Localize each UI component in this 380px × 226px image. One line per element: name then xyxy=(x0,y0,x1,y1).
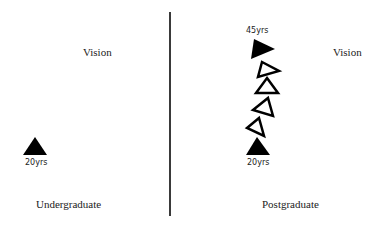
filled-triangle-icon xyxy=(250,38,276,60)
left-vision-label: Vision xyxy=(83,46,112,58)
right-start-age-label: 20yrs xyxy=(247,158,269,167)
panel-divider xyxy=(169,12,171,216)
hollow-triangle-icon xyxy=(251,96,277,118)
postgraduate-caption: Postgraduate xyxy=(262,198,319,210)
left-start-age-label: 20yrs xyxy=(25,158,47,167)
hollow-triangle-icon xyxy=(245,116,271,138)
hollow-triangle-icon xyxy=(254,76,280,96)
right-vision-label: Vision xyxy=(333,46,362,58)
filled-triangle-icon xyxy=(22,136,48,156)
undergraduate-caption: Undergraduate xyxy=(36,198,101,210)
filled-triangle-icon xyxy=(245,136,271,156)
right-end-age-label: 45yrs xyxy=(246,26,268,35)
